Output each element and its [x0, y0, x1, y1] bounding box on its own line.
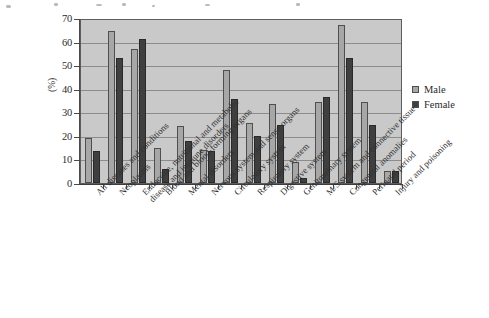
y-tick-label: 20: [42, 132, 72, 143]
bar-female: [93, 151, 100, 183]
bar-male: [85, 138, 92, 183]
scan-artifact: [205, 4, 210, 6]
y-tick-label: 30: [42, 108, 72, 119]
y-tick-label: 40: [42, 85, 72, 96]
y-tick-mark: [74, 113, 79, 114]
legend-item-male: Male: [412, 82, 455, 97]
y-tick-label: 0: [42, 179, 72, 190]
scan-artifact: [96, 4, 102, 6]
y-tick-mark: [74, 19, 79, 20]
scan-artifact: [152, 5, 155, 7]
scan-artifact: [54, 3, 58, 6]
legend-item-female: Female: [412, 97, 455, 112]
scan-artifact: [6, 5, 11, 8]
legend-swatch-male: [412, 86, 419, 93]
y-tick-label: 10: [42, 155, 72, 166]
y-tick-mark: [74, 184, 79, 185]
y-tick-mark: [74, 66, 79, 67]
y-tick-mark: [74, 160, 79, 161]
bar-male: [108, 31, 115, 183]
scan-artifact: [122, 3, 126, 6]
y-tick-mark: [74, 90, 79, 91]
legend-label-female: Female: [424, 97, 455, 112]
y-tick-mark: [74, 137, 79, 138]
legend-label-male: Male: [424, 82, 446, 97]
y-tick-label: 60: [42, 38, 72, 49]
y-tick-mark: [74, 43, 79, 44]
gridline: [81, 66, 401, 67]
gridline: [81, 43, 401, 44]
bar-chart: (%) Male Female 010203040506070All disea…: [0, 0, 489, 318]
y-axis-line: [79, 19, 80, 185]
y-tick-label: 70: [42, 14, 72, 25]
scan-artifact: [296, 3, 300, 6]
y-tick-label: 50: [42, 61, 72, 72]
chart-legend: Male Female: [412, 82, 455, 112]
